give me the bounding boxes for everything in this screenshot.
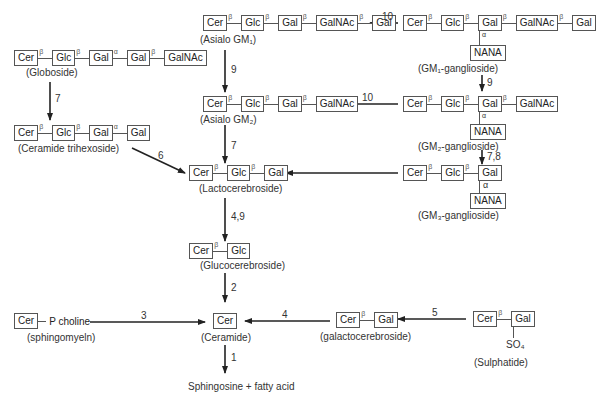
unit-box: Cer xyxy=(213,313,237,329)
glucocerebroside-label: (Glucocerebroside) xyxy=(200,260,285,271)
branch-bond xyxy=(479,31,480,45)
unit-box: Glc xyxy=(52,50,75,66)
sphingomyelin-label: (sphingomyeln) xyxy=(27,332,95,343)
gm1-chain: Cer β Glc β Gal β GalNAc β Gal xyxy=(403,15,596,31)
asialo-gm2-chain: Cer β Glc β Gal β GalNAc xyxy=(203,96,358,112)
unit-box: Gal xyxy=(478,165,502,181)
unit-box: Cer xyxy=(14,313,38,329)
reaction-number: 10 xyxy=(382,11,393,22)
lactocerebroside-chain: Cer β Glc β Gal xyxy=(189,165,288,181)
unit-box: Cer xyxy=(203,96,227,112)
branch-bond xyxy=(513,327,514,338)
branch-link-label: α xyxy=(483,180,488,190)
asialo-gm2-label: (Asialo GM₂) xyxy=(200,114,257,125)
reaction-number: 1 xyxy=(231,352,237,363)
unit-box: GalNAc xyxy=(516,15,558,31)
unit-box: Cer xyxy=(14,125,38,141)
unit-box: Gal xyxy=(478,96,502,112)
bond: β xyxy=(497,319,511,320)
bond: β xyxy=(427,173,441,174)
branch-link-label: α xyxy=(482,31,486,38)
unit-box: Cer xyxy=(189,165,213,181)
unit-box: GalNAc xyxy=(516,96,558,112)
unit-box: Cer xyxy=(336,312,360,328)
gm3-label: (GM₃-ganglioside) xyxy=(418,210,499,221)
asialo-gm1-chain: Cer β Glc β Gal β GalNAc β Gal xyxy=(203,15,396,31)
phosphocholine-label: P choline xyxy=(49,316,90,327)
bond: β xyxy=(302,23,316,24)
bond: α xyxy=(113,58,127,59)
sphingomyelin-chain: Cer P choline xyxy=(14,313,90,329)
bond: β xyxy=(558,23,572,24)
unit-box: Gal xyxy=(127,50,151,66)
asialo-gm1-label: (Asialo GM₁) xyxy=(200,34,256,45)
unit-box: Cer xyxy=(189,243,213,259)
unit-box: Glc xyxy=(227,243,250,259)
reaction-number: 7 xyxy=(55,93,61,104)
unit-box: Gal xyxy=(264,165,288,181)
reaction-number: 9 xyxy=(487,77,493,88)
unit-box: GalNAc xyxy=(164,50,206,66)
bond: β xyxy=(264,23,278,24)
products-label: Sphingosine + fatty acid xyxy=(188,381,294,392)
bond: β xyxy=(427,104,441,105)
reaction-number: 10 xyxy=(362,92,373,103)
unit-box: Glc xyxy=(441,15,464,31)
unit-box: Cer xyxy=(403,165,427,181)
unit-box: Gal xyxy=(278,96,302,112)
bond: β xyxy=(427,23,441,24)
unit-box: Cer xyxy=(403,96,427,112)
reaction-number: 6 xyxy=(158,150,164,161)
reaction-number: 7,8 xyxy=(487,151,501,162)
galactocerebroside-label: (galactocerebroside) xyxy=(320,331,411,342)
unit-box: Cer xyxy=(14,50,38,66)
reaction-number: 4,9 xyxy=(231,211,245,222)
unit-box: Gal xyxy=(572,15,596,31)
bond: β xyxy=(502,104,516,105)
bond: β xyxy=(38,58,52,59)
bond: β xyxy=(358,23,372,24)
gm2-chain: Cer β Glc β Gal β GalNAc xyxy=(403,96,558,112)
sulphate-label: SO₄ xyxy=(506,339,525,350)
unit-box: Gal xyxy=(127,125,151,141)
unit-box: Gal xyxy=(511,311,535,327)
unit-box: Glc xyxy=(227,165,250,181)
bond: β xyxy=(502,23,516,24)
gm3-chain: Cer β Glc β Gal xyxy=(403,165,502,181)
bond: β xyxy=(150,58,164,59)
unit-box: Cer xyxy=(203,15,227,31)
ceramide-chain: Cer xyxy=(213,313,237,329)
gm1-label: (GM₁-ganglioside) xyxy=(418,63,498,74)
bond: β xyxy=(38,133,52,134)
unit-box: GalNAc xyxy=(316,96,358,112)
nana-box: NANA xyxy=(470,45,506,61)
nana-box: NANA xyxy=(470,124,506,140)
unit-box: Gal xyxy=(478,15,502,31)
bond: β xyxy=(464,104,478,105)
reaction-number: 3 xyxy=(141,310,147,321)
globoside-label: (Globoside) xyxy=(26,67,78,78)
bond: β xyxy=(227,23,241,24)
ceramide-trihexoside-chain: Cer β Glc β Gal α Gal xyxy=(14,125,150,141)
globoside-chain: Cer β Glc β Gal α Gal β GalNAc xyxy=(14,50,207,66)
unit-box: Gal xyxy=(374,312,398,328)
unit-box: Cer xyxy=(473,311,497,327)
bond: β xyxy=(227,104,241,105)
unit-box: Glc xyxy=(441,165,464,181)
reaction-number: 9 xyxy=(231,64,237,75)
sulphatide-chain: Cer β Gal xyxy=(473,311,535,327)
bond: β xyxy=(302,104,316,105)
bond: β xyxy=(213,173,227,174)
unit-box: Gal xyxy=(278,15,302,31)
lactocerebroside-label: (Lactocerebroside) xyxy=(199,183,282,194)
bond: β xyxy=(213,251,227,252)
bond: β xyxy=(464,173,478,174)
reaction-number: 7 xyxy=(231,140,237,151)
unit-box: Cer xyxy=(403,15,427,31)
unit-box: Gal xyxy=(89,50,113,66)
bond: β xyxy=(75,133,89,134)
nana-box: NANA xyxy=(470,193,506,209)
bond: β xyxy=(464,23,478,24)
ceramide-label: (Ceramide) xyxy=(201,332,251,343)
reaction-number: 4 xyxy=(282,309,288,320)
